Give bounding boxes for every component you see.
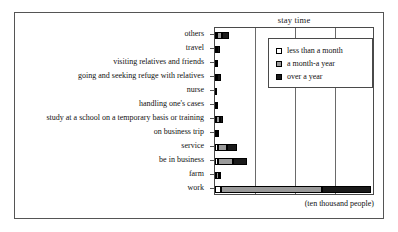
bar-segment [227, 144, 237, 151]
category-label: going and seeking refuge with relatives [78, 71, 204, 80]
bar-segment [216, 60, 218, 67]
legend-label: over a year [287, 72, 323, 81]
x-axis-unit-caption: (ten thousand people) [254, 199, 374, 208]
category-label: nurse [187, 85, 204, 94]
swatch-gray-icon [276, 61, 282, 67]
bar-segment [215, 88, 217, 95]
category-label: service [181, 141, 204, 150]
swatch-black-icon [276, 74, 282, 80]
axis-tick [210, 146, 214, 147]
axis-tick [210, 160, 214, 161]
swatch-white-icon [276, 48, 282, 54]
bar-segment [217, 46, 220, 53]
axis-tick [210, 188, 214, 189]
category-label: be in business [159, 155, 204, 164]
bar-segment [220, 116, 223, 123]
bar-segment [217, 130, 219, 137]
bar-segment [322, 186, 372, 193]
category-label: work [188, 183, 204, 192]
bar-segment [219, 172, 221, 179]
gridline-25 [255, 28, 256, 194]
axis-tick [210, 132, 214, 133]
axis-tick [210, 76, 214, 77]
category-label: farm [189, 169, 204, 178]
category-axis-labels: otherstravelvisiting relatives and frien… [16, 27, 210, 195]
bar-segment [217, 74, 221, 81]
legend-item: over a year [276, 70, 372, 83]
chart-legend: less than a montha month-a yearover a ye… [268, 38, 373, 88]
category-label: handling one's cases [139, 99, 204, 108]
category-label: on business trip [154, 127, 204, 136]
bar-segment [221, 186, 322, 193]
bar-segment [218, 144, 227, 151]
bar-segment [222, 32, 229, 39]
legend-item: less than a month [276, 44, 372, 57]
axis-tick [210, 34, 214, 35]
legend-label: less than a month [287, 46, 343, 55]
axis-tick [210, 104, 214, 105]
legend-item: a month-a year [276, 57, 372, 70]
category-label: study at a school on a temporary basis o… [46, 113, 204, 122]
axis-tick [210, 174, 214, 175]
axis-tick [210, 48, 214, 49]
legend-label: a month-a year [287, 59, 335, 68]
bar-segment [216, 102, 218, 109]
chart-title: stay time [214, 15, 374, 25]
axis-tick [210, 90, 214, 91]
category-label: travel [186, 43, 204, 52]
bar-segment [233, 158, 247, 165]
axis-tick [210, 62, 214, 63]
axis-tick [210, 118, 214, 119]
bar-segment [218, 158, 233, 165]
chart-page: stay time otherstravelvisiting relatives… [0, 0, 398, 232]
category-label: visiting relatives and friends [113, 57, 204, 66]
category-label: others [184, 29, 204, 38]
